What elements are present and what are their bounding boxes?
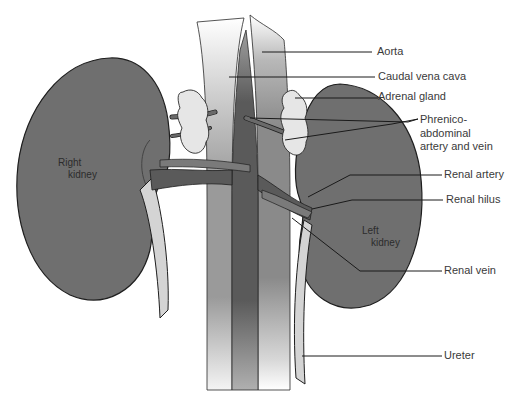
aorta-label: Aorta xyxy=(377,45,403,58)
left-ureter-shape xyxy=(294,220,312,384)
caudal-vena-cava-label: Caudal vena cava xyxy=(378,70,466,83)
left-kidney-label: Left kidney xyxy=(362,225,400,249)
renal-vein-label: Renal vein xyxy=(444,264,496,277)
adrenal-gland-label: Adrenal gland xyxy=(378,90,446,103)
left-kidney-shape xyxy=(296,84,422,308)
central-vessel-shape xyxy=(232,30,258,390)
left-adrenal-gland-shape xyxy=(281,90,308,155)
right-kidney-label: Right kidney xyxy=(58,157,97,181)
right-adrenal-gland-shape xyxy=(178,90,209,153)
renal-hilus-label: Renal hilus xyxy=(446,193,500,206)
renal-artery-label: Renal artery xyxy=(444,168,504,181)
kidney-anatomy-illustration xyxy=(0,0,508,403)
phrenico-abdominal-label: Phrenico- abdominal artery and vein xyxy=(420,113,493,154)
ureter-label: Ureter xyxy=(444,349,475,362)
